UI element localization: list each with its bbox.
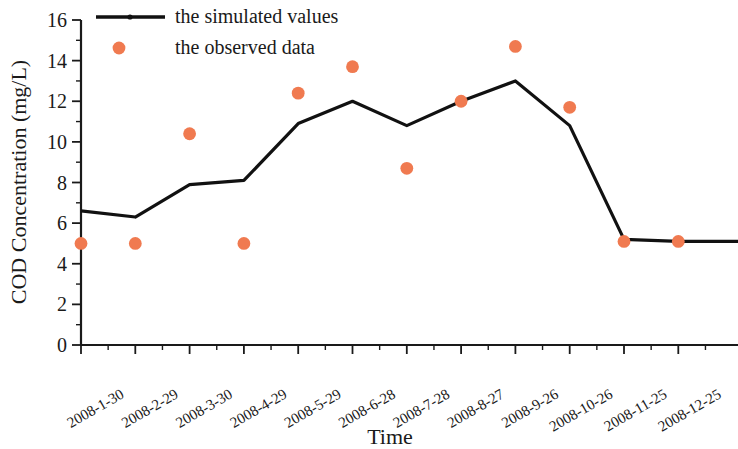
observed-data-point xyxy=(238,237,251,250)
observed-data-point xyxy=(672,235,685,248)
observed-data-point xyxy=(346,60,359,73)
legend-label-observed: the observed data xyxy=(175,36,315,58)
legend-dot-icon xyxy=(113,42,126,55)
legend-label-simulated: the simulated values xyxy=(175,5,339,27)
y-tick-label: 6 xyxy=(57,212,67,234)
y-tick-label: 4 xyxy=(57,253,67,275)
observed-data-point xyxy=(618,235,631,248)
y-tick-label: 16 xyxy=(47,9,67,31)
y-tick-label: 12 xyxy=(47,90,67,112)
y-axis-title: COD Concentration (mg/L) xyxy=(6,60,31,304)
y-tick-label: 8 xyxy=(57,172,67,194)
cod-concentration-time-series-chart: 0246810121416 2008-1-302008-2-292008-3-3… xyxy=(0,0,738,449)
y-tick-label: 14 xyxy=(47,50,67,72)
observed-data-point xyxy=(455,95,468,108)
chart-background xyxy=(0,0,738,449)
y-tick-label: 10 xyxy=(47,131,67,153)
observed-data-point xyxy=(183,127,196,140)
observed-data-point xyxy=(400,162,413,175)
x-axis-title: Time xyxy=(367,424,413,449)
chart-figure: 0246810121416 2008-1-302008-2-292008-3-3… xyxy=(0,0,738,449)
observed-data-point xyxy=(75,237,88,250)
legend-line-marker-icon xyxy=(127,14,132,19)
y-tick-label: 0 xyxy=(57,334,67,356)
y-tick-label: 2 xyxy=(57,293,67,315)
observed-data-point xyxy=(292,87,305,100)
observed-data-point xyxy=(563,101,576,114)
observed-data-point xyxy=(129,237,142,250)
observed-data-point xyxy=(509,40,522,53)
